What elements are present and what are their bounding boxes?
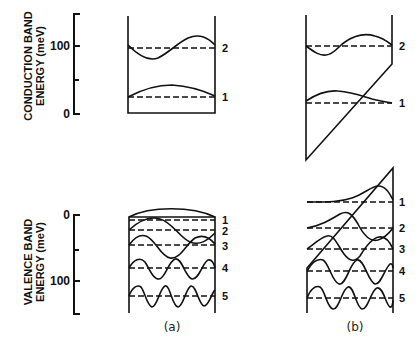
conduction-b-level-2: 2: [399, 40, 405, 52]
conduction-axis-label-line2: ENERGY (meV): [34, 26, 46, 106]
valence-axis-label-line2: ENERGY (meV): [34, 222, 46, 302]
valence-a-level-3: 3: [222, 240, 228, 252]
conduction-a-level-2: 2: [222, 42, 228, 54]
conduction-tick-100: 100: [50, 39, 70, 53]
panel-label-b: (b): [347, 320, 364, 334]
valence-b-level-5: 5: [399, 292, 405, 304]
valence-b-level-1: 1: [399, 196, 405, 208]
valence-well-b: 1 2 3 4 5: [307, 168, 406, 313]
valence-a-level-2: 2: [222, 225, 228, 237]
conduction-axis-label-line1: CONDUCTION BAND: [22, 11, 34, 120]
valence-a-level-4: 4: [222, 262, 229, 274]
valence-axis-label-line1: VALENCE BAND: [22, 219, 34, 306]
valence-axis: VALENCE BAND ENERGY (meV) 0 100: [22, 208, 80, 314]
valence-b-level-4: 4: [399, 265, 406, 277]
conduction-well-b: 2 1: [306, 15, 405, 160]
valence-well-a: 1 2 3 4 5: [129, 209, 229, 313]
conduction-well-a: 2 1: [128, 16, 228, 113]
valence-b-level-2: 2: [399, 222, 405, 234]
conduction-axis: CONDUCTION BAND ENERGY (meV) 100 0: [22, 11, 80, 121]
quantum-well-diagram: CONDUCTION BAND ENERGY (meV) 100 0 2 1 2…: [0, 0, 419, 345]
valence-b-level-3: 3: [399, 243, 405, 255]
valence-tick-100: 100: [50, 274, 70, 288]
conduction-tick-0: 0: [63, 107, 70, 121]
valence-tick-0: 0: [63, 208, 70, 222]
panel-label-a: (a): [164, 320, 181, 334]
valence-a-level-5: 5: [222, 290, 228, 302]
conduction-b-level-1: 1: [399, 97, 405, 109]
conduction-a-level-1: 1: [222, 91, 228, 103]
